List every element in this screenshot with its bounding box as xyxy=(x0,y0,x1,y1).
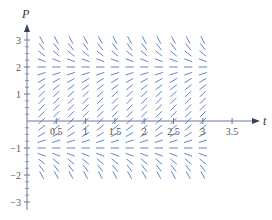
y-tick-label: −3 xyxy=(10,197,21,208)
slope-segment xyxy=(156,43,161,50)
slope-segment xyxy=(142,43,147,50)
slope-segment xyxy=(111,153,119,156)
slope-segment xyxy=(82,153,90,156)
slope-segment xyxy=(53,98,59,104)
slope-segment xyxy=(96,140,104,143)
slope-segment xyxy=(186,171,190,178)
slope-segment xyxy=(39,111,45,117)
slope-segment xyxy=(126,85,133,90)
slope-segment xyxy=(156,165,161,172)
slope-segment xyxy=(53,85,60,90)
y-tick-label: −1 xyxy=(10,143,21,154)
slope-segment xyxy=(185,159,192,164)
x-tick-label: 1.5 xyxy=(109,126,122,137)
slope-segment xyxy=(155,132,162,136)
slope-segment xyxy=(155,78,162,82)
slope-segment xyxy=(170,140,178,143)
slope-segment xyxy=(126,159,133,164)
slope-segment xyxy=(200,104,206,110)
slope-segment xyxy=(39,104,45,110)
slope-segment xyxy=(185,98,191,104)
slope-segment xyxy=(82,72,90,75)
slope-segment xyxy=(52,72,60,75)
slope-segment xyxy=(38,125,45,130)
slope-field-segments xyxy=(37,36,207,178)
slope-segment xyxy=(112,159,119,164)
slope-segment xyxy=(53,104,59,110)
slope-segment xyxy=(83,91,89,97)
y-tick-label: −2 xyxy=(10,170,21,181)
slope-segment xyxy=(38,159,45,164)
slope-segment xyxy=(170,59,178,62)
slope-segment xyxy=(54,43,59,50)
slope-segment xyxy=(186,43,191,50)
slope-segment xyxy=(156,125,163,130)
slope-segment xyxy=(156,98,162,104)
slope-segment xyxy=(155,59,163,62)
slope-segment xyxy=(200,111,206,117)
slope-segment xyxy=(82,59,90,62)
slope-segment xyxy=(200,91,206,97)
slope-segment xyxy=(68,125,75,130)
x-axis-arrow-icon xyxy=(252,118,260,124)
y-tick-label: 3 xyxy=(16,35,21,46)
slope-segment xyxy=(52,153,60,156)
slope-segment xyxy=(111,140,119,143)
slope-segment xyxy=(82,140,90,143)
slope-segment xyxy=(200,98,206,104)
slope-segment xyxy=(82,78,89,82)
slope-segment xyxy=(38,140,46,143)
slope-segment xyxy=(140,72,148,75)
slope-segment xyxy=(38,72,46,75)
slope-segment xyxy=(68,104,74,110)
slope-segment xyxy=(68,98,74,104)
slope-segment xyxy=(172,171,176,178)
slope-segment xyxy=(67,132,74,136)
slope-segment xyxy=(171,43,176,50)
slope-segment xyxy=(52,140,60,143)
slope-segment xyxy=(141,78,148,82)
slope-segment xyxy=(170,72,178,75)
slope-segment xyxy=(96,72,104,75)
slope-segment xyxy=(157,171,161,178)
slope-segment xyxy=(112,85,119,90)
slope-segment xyxy=(127,111,133,117)
x-tick-label: 3.5 xyxy=(226,126,239,137)
slope-segment xyxy=(141,104,147,110)
slope-segment xyxy=(127,98,133,104)
slope-segment xyxy=(171,104,177,110)
slope-segment xyxy=(82,159,89,164)
slope-segment xyxy=(69,36,73,43)
x-tick-label: 1 xyxy=(83,126,88,137)
slope-segment xyxy=(185,132,192,136)
slope-segment xyxy=(199,72,207,75)
slope-segment xyxy=(157,36,161,43)
slope-segment xyxy=(39,98,45,104)
slope-segment xyxy=(97,104,103,110)
slope-segment xyxy=(53,78,60,82)
slope-segment xyxy=(82,51,89,56)
slope-segment xyxy=(156,85,163,90)
slope-segment xyxy=(111,72,119,75)
slope-segment xyxy=(184,153,192,156)
slope-segment xyxy=(96,59,104,62)
slope-segment xyxy=(170,153,178,156)
slope-segment xyxy=(185,51,192,56)
slope-segment xyxy=(98,36,102,43)
slope-segment xyxy=(112,98,118,104)
slope-segment xyxy=(170,78,177,82)
slope-segment xyxy=(67,72,75,75)
slope-segment xyxy=(155,153,163,156)
slope-segment xyxy=(185,104,191,110)
slope-segment xyxy=(83,43,88,50)
slope-segment xyxy=(200,51,207,56)
slope-segment xyxy=(112,43,117,50)
slope-segment xyxy=(83,111,89,117)
axes: 0.511.522.533.5 −3−2−1123 t P xyxy=(10,7,267,210)
slope-segment xyxy=(97,85,104,90)
slope-segment xyxy=(199,59,207,62)
slope-segment xyxy=(172,36,176,43)
slope-segment xyxy=(97,125,104,130)
slope-segment xyxy=(140,153,148,156)
slope-segment xyxy=(112,91,118,97)
